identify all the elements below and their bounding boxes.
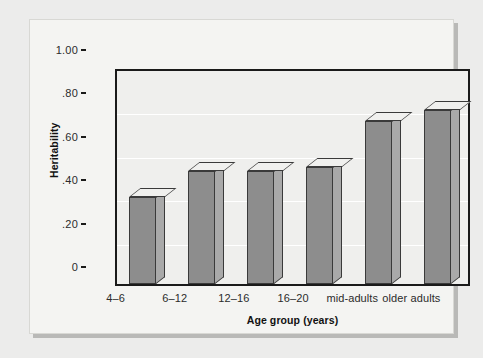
- y-axis-tick-label: .20: [34, 218, 78, 230]
- bar-side-face: [333, 160, 342, 284]
- y-axis-tick-label: .60: [34, 131, 78, 143]
- bar-side-face: [274, 164, 283, 284]
- y-axis-tick-label: 1.00: [34, 44, 78, 56]
- y-axis-tick-mark: [81, 266, 86, 268]
- bar-side-face: [451, 103, 460, 284]
- gridline: [117, 114, 468, 115]
- y-axis-tick-mark: [81, 179, 86, 181]
- bar-top-face: [129, 188, 177, 197]
- bar: [365, 121, 392, 284]
- bar-top-face: [365, 112, 413, 121]
- bar-side-face: [392, 114, 401, 284]
- x-axis-title: Age group (years): [115, 314, 470, 326]
- y-axis-tick-label: .40: [34, 174, 78, 186]
- figure-card: Heritability 1.00.80.60.40.200 4–66–1212…: [29, 19, 454, 334]
- y-axis-tick-mark: [81, 49, 86, 51]
- bar-top-face: [424, 101, 472, 110]
- gridline: [117, 201, 468, 202]
- bar-front-face: [129, 197, 156, 284]
- bar-front-face: [247, 171, 274, 284]
- bar-front-face: [365, 121, 392, 284]
- x-axis-tick-label: older adults: [366, 292, 456, 304]
- y-axis-tick-label: 0: [34, 261, 78, 273]
- bar-top-face: [306, 158, 354, 167]
- bar-front-face: [188, 171, 215, 284]
- bar-front-face: [424, 110, 451, 284]
- gridline: [117, 158, 468, 159]
- bar: [129, 197, 156, 284]
- bar-top-face: [247, 162, 295, 171]
- bar-front-face: [306, 167, 333, 284]
- bar-side-face: [156, 190, 165, 284]
- y-axis-tick-label: .80: [34, 87, 78, 99]
- y-axis-tick-mark: [81, 92, 86, 94]
- y-axis-tick-mark: [81, 223, 86, 225]
- gridline: [117, 245, 468, 246]
- plot-area: [115, 69, 470, 286]
- figure-page: Heritability 1.00.80.60.40.200 4–66–1212…: [0, 0, 483, 358]
- bar: [188, 171, 215, 284]
- bar-top-face: [188, 162, 236, 171]
- bar-side-face: [215, 164, 224, 284]
- bar: [247, 171, 274, 284]
- y-axis-tick-mark: [81, 136, 86, 138]
- bar: [424, 110, 451, 284]
- bar: [306, 167, 333, 284]
